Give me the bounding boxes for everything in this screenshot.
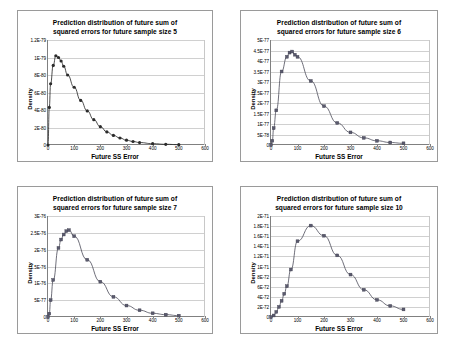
x-axis-tick-label: 500 <box>175 146 183 151</box>
y-axis-tick-label: 1E-71 <box>257 264 269 269</box>
y-axis-tick-label: 6E-72 <box>257 284 269 289</box>
y-axis-tick-label: 3E-76 <box>34 214 46 219</box>
data-point-marker <box>46 143 49 146</box>
data-point-marker <box>138 141 141 144</box>
data-point-marker <box>323 105 326 108</box>
data-point-marker <box>57 56 60 59</box>
x-axis-tick-label: 100 <box>70 318 78 323</box>
data-point-marker <box>164 143 167 146</box>
y-axis-tick-label: 2E-80 <box>34 125 46 130</box>
chart-panel-size-10: Prediction distribution of future sum of… <box>240 186 438 334</box>
data-point-marker <box>105 130 108 133</box>
data-point-marker <box>275 311 278 314</box>
data-point-marker <box>125 139 128 142</box>
y-axis-tick-label: 0 <box>44 143 46 148</box>
data-point-marker <box>289 268 292 271</box>
x-axis-tick-label: 400 <box>373 146 381 151</box>
chart-title-line2: squared errors for future sample size 7 <box>18 203 212 212</box>
y-axis-tick-label: 1.2E-79 <box>31 38 46 43</box>
x-axis-tick-label: 400 <box>373 318 381 323</box>
data-point-marker <box>138 309 141 312</box>
data-point-marker <box>272 127 275 130</box>
data-point-marker <box>309 224 312 227</box>
y-axis-tick-label: 4E-77 <box>257 59 269 64</box>
data-point-marker <box>336 254 339 257</box>
y-axis-tick-label: 8E-72 <box>257 274 269 279</box>
data-point-marker <box>54 54 57 57</box>
data-point-marker <box>389 141 392 144</box>
y-axis-tick-label: 2.5E-76 <box>31 230 46 235</box>
y-axis-label-size-5: Density <box>27 88 33 110</box>
data-point-marker <box>291 50 294 53</box>
x-axis-label-size-6: Future SS Error <box>241 153 437 160</box>
x-axis-tick-label: 100 <box>294 318 302 323</box>
x-axis-label-size-10: Future SS Error <box>241 325 437 332</box>
data-point-marker <box>62 65 65 68</box>
x-axis-tick-label: 300 <box>123 146 131 151</box>
x-axis-tick-label: 400 <box>149 146 157 151</box>
y-axis-tick-label: 1E-76 <box>34 281 46 286</box>
data-point-marker <box>112 134 115 137</box>
data-point-marker <box>336 122 339 125</box>
data-point-marker <box>376 139 379 142</box>
data-point-marker <box>73 235 76 238</box>
y-axis-tick-label: 5E-78 <box>257 132 269 137</box>
data-point-marker <box>177 314 180 317</box>
y-axis-tick-label: 0 <box>267 315 269 320</box>
y-axis-tick-label: 2E-71 <box>257 214 269 219</box>
y-axis-tick-label: 1.8E-71 <box>254 224 269 229</box>
y-axis-tick-label: 3.5E-77 <box>254 69 269 74</box>
data-point-marker <box>125 304 128 307</box>
series-line <box>271 226 404 317</box>
y-axis-tick-label: 1E-77 <box>257 122 269 127</box>
x-axis-tick-label: 600 <box>426 318 434 323</box>
chart-title-size-7: Prediction distribution of future sum of… <box>18 187 212 212</box>
x-axis-tick-label: 200 <box>320 146 328 151</box>
y-axis-tick-label: 4E-80 <box>34 108 46 113</box>
y-axis-tick-label: 0 <box>267 143 269 148</box>
chart-title-line2: squared errors for future sample size 10 <box>241 203 437 212</box>
x-axis-tick-label: 0 <box>270 318 273 323</box>
y-axis-label-size-10: Density <box>250 262 256 284</box>
data-point-marker <box>278 305 281 308</box>
series-chart-size-10 <box>271 216 430 317</box>
x-axis-tick-label: 500 <box>175 318 183 323</box>
x-axis-tick-label: 500 <box>400 318 408 323</box>
data-point-marker <box>362 288 365 291</box>
data-point-marker <box>62 233 65 236</box>
data-point-marker <box>280 299 283 302</box>
data-point-marker <box>48 106 51 109</box>
plot-area-size-5: 02E-804E-806E-808E-801E-791.2E-790100200… <box>47 40 204 145</box>
plot-area-size-7: 05E-771E-761.5E-762E-762.5E-763E-7601002… <box>47 216 204 317</box>
data-point-marker <box>99 280 102 283</box>
x-axis-tick-label: 300 <box>347 146 355 151</box>
data-point-marker <box>52 279 55 282</box>
data-point-marker <box>362 136 365 139</box>
data-point-marker <box>48 312 51 315</box>
data-point-marker <box>73 86 76 89</box>
data-point-marker <box>92 118 95 121</box>
x-axis-tick-label: 600 <box>426 146 434 151</box>
x-axis-label-size-5: Future SS Error <box>18 153 212 160</box>
x-axis-tick-label: 100 <box>70 146 78 151</box>
y-axis-tick-label: 1.5E-77 <box>254 111 269 116</box>
plot-wrap-size-5: Density 02E-804E-806E-808E-801E-791.2E-7… <box>18 36 212 161</box>
data-point-marker <box>151 312 154 315</box>
y-axis-tick-label: 5E-77 <box>34 298 46 303</box>
x-axis-tick-label: 200 <box>320 318 328 323</box>
y-axis-tick-label: 6E-80 <box>34 90 46 95</box>
y-axis-tick-label: 4.5E-77 <box>254 48 269 53</box>
x-axis-tick-label: 500 <box>400 146 408 151</box>
x-axis-tick-label: 100 <box>294 146 302 151</box>
x-axis-tick-label: 300 <box>347 318 355 323</box>
plot-area-size-10: 02E-724E-726E-728E-721E-711.2E-711.4E-71… <box>270 216 429 317</box>
y-axis-tick-label: 2E-72 <box>257 304 269 309</box>
x-axis-tick-label: 0 <box>47 318 50 323</box>
data-point-marker <box>86 258 89 261</box>
data-point-marker <box>349 273 352 276</box>
data-point-marker <box>270 144 273 147</box>
chart-title-line1: Prediction distribution of future sum of <box>18 194 212 203</box>
y-axis-tick-label: 2E-77 <box>257 101 269 106</box>
data-point-marker <box>389 304 392 307</box>
data-point-marker <box>151 142 154 145</box>
